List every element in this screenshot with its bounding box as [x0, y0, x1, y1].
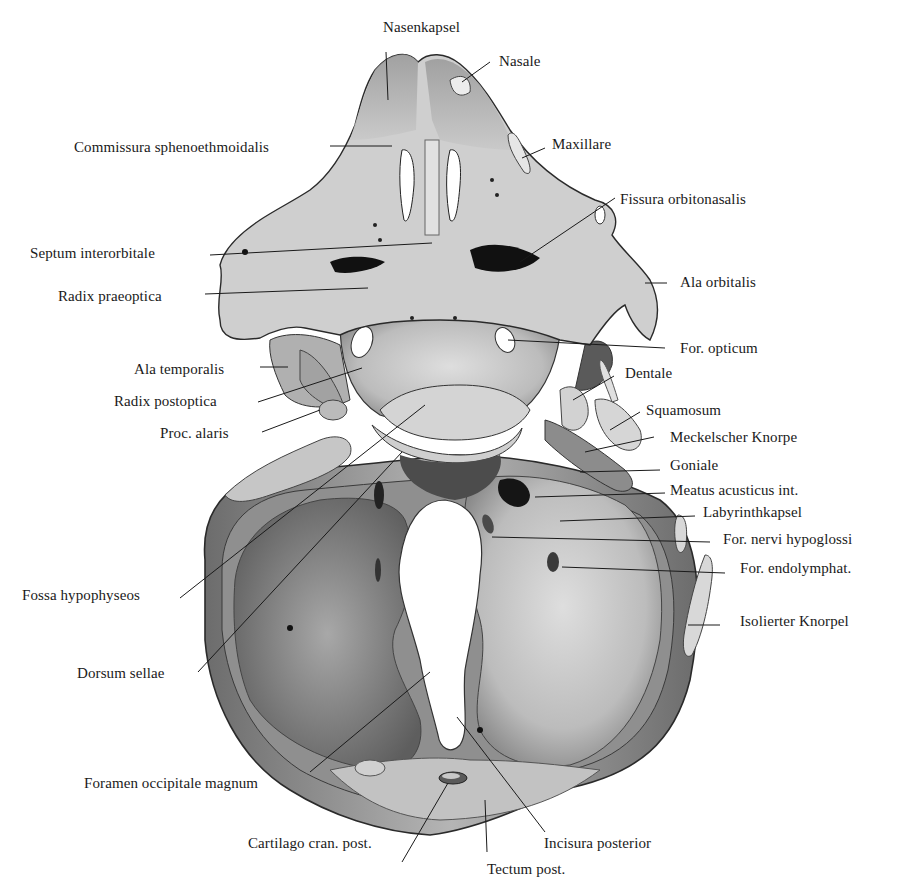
- label-incisura-posterior: Incisura posterior: [544, 834, 651, 852]
- label-squamosum: Squamosum: [646, 401, 721, 419]
- label-ala-temporalis: Ala temporalis: [134, 360, 224, 378]
- label-dorsum-sellae: Dorsum sellae: [77, 664, 165, 682]
- label-fissura-orbitonasalis: Fissura orbitonasalis: [620, 190, 746, 208]
- label-maxillare: Maxillare: [552, 135, 611, 153]
- label-goniale: Goniale: [670, 456, 718, 474]
- label-isolierter-knorpel: Isolierter Knorpel: [740, 612, 849, 630]
- label-radix-postoptica: Radix postoptica: [114, 392, 217, 410]
- orbital-nasal-region: [219, 54, 658, 345]
- label-commissura-sphenoethmoidalis: Commissura sphenoethmoidalis: [74, 138, 269, 156]
- label-ala-orbitalis: Ala orbitalis: [680, 273, 756, 291]
- label-meckelscher-knorpe: Meckelscher Knorpe: [670, 428, 797, 446]
- label-septum-interorbitale: Septum interorbitale: [30, 244, 155, 262]
- label-fossa-hypophyseos: Fossa hypophyseos: [22, 586, 140, 604]
- label-labyrinthkapsel: Labyrinthkapsel: [703, 503, 802, 521]
- label-foramen-occipitale-magnum: Foramen occipitale magnum: [84, 774, 258, 792]
- label-for-nervi-hypoglossi: For. nervi hypoglossi: [723, 530, 852, 548]
- label-radix-praeoptica: Radix praeoptica: [58, 287, 162, 305]
- label-cartilago-cran-post: Cartilago cran. post.: [248, 834, 372, 852]
- label-nasale: Nasale: [499, 52, 540, 70]
- chondrocranium-figure: Nasenkapsel Nasale Commissura sphenoethm…: [0, 0, 910, 893]
- label-tectum-post: Tectum post.: [487, 860, 565, 878]
- label-meatus-acusticus-int: Meatus acusticus int.: [670, 481, 798, 499]
- label-for-endolymphat: For. endolymphat.: [740, 559, 851, 577]
- label-for-opticum: For. opticum: [680, 339, 758, 357]
- label-dentale: Dentale: [625, 364, 672, 382]
- label-nasenkapsel: Nasenkapsel: [383, 18, 460, 36]
- skull-illustration: [0, 0, 910, 893]
- label-proc-alaris: Proc. alaris: [160, 424, 229, 442]
